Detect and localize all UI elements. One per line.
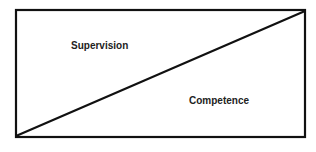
supervision-label: Supervision [71,40,128,51]
competence-label: Competence [189,95,249,106]
supervision-competence-diagram: Supervision Competence [0,0,316,152]
